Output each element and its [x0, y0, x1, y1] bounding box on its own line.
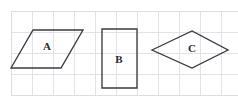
shapes-layer: ABC: [11, 29, 228, 88]
figure-canvas: ABC: [0, 0, 238, 112]
shape-label-b: B: [115, 53, 123, 65]
shape-label-a: A: [43, 40, 51, 52]
shape-c: C: [152, 31, 228, 68]
shape-label-c: C: [188, 42, 196, 54]
geometry-figure: ABC: [0, 0, 238, 112]
shape-a: A: [11, 30, 83, 68]
shape-b: B: [102, 29, 137, 88]
